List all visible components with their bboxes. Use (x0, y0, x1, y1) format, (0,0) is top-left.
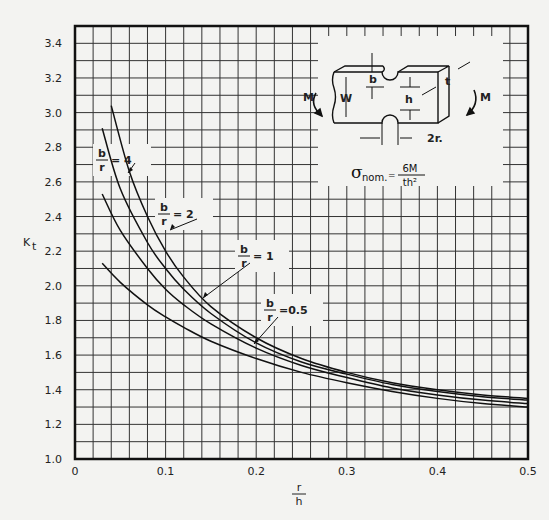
x-tick-label: 0 (72, 465, 79, 478)
svg-text:r: r (241, 257, 247, 270)
x-tick-label: 0.5 (519, 465, 537, 478)
y-tick-label: 2.2 (45, 245, 63, 258)
svg-text:th²: th² (403, 177, 417, 188)
svg-text:h: h (405, 93, 413, 106)
svg-text:b: b (240, 243, 248, 256)
svg-text:= 2: = 2 (173, 208, 194, 221)
svg-text:b: b (369, 73, 377, 86)
svg-text:=: = (388, 170, 396, 180)
svg-text:nom.: nom. (362, 172, 387, 183)
svg-text:r: r (267, 311, 273, 324)
svg-text:2r.: 2r. (427, 132, 443, 145)
svg-text:r: r (297, 481, 302, 494)
svg-text:K: K (23, 236, 31, 249)
y-tick-label: 2.6 (45, 176, 63, 189)
svg-text:r: r (161, 215, 167, 228)
y-tick-label: 1.6 (45, 349, 63, 362)
svg-text:W: W (340, 92, 352, 105)
svg-text:b: b (98, 147, 106, 160)
y-tick-label: 1.8 (45, 314, 63, 327)
y-tick-label: 1.4 (45, 384, 63, 397)
svg-text:h: h (296, 495, 303, 508)
x-axis-ticks: 00.10.20.30.40.5 (72, 465, 537, 478)
y-tick-label: 3.0 (45, 107, 63, 120)
svg-text:= 4: = 4 (111, 154, 132, 167)
y-axis-label: K t (23, 236, 37, 253)
y-tick-label: 3.4 (45, 37, 63, 50)
x-tick-label: 0.2 (247, 465, 265, 478)
y-axis-ticks: 1.01.21.41.61.82.02.22.42.62.83.03.23.4 (45, 37, 63, 466)
svg-text:M: M (480, 91, 491, 104)
curve-label-backgrounds (93, 144, 323, 326)
x-tick-label: 0.1 (157, 465, 175, 478)
svg-text:r: r (99, 161, 105, 174)
y-tick-label: 1.2 (45, 418, 63, 431)
x-axis-label: r h (292, 481, 306, 508)
svg-text:t: t (32, 240, 37, 253)
y-tick-label: 2.4 (45, 211, 63, 224)
stress-concentration-chart: br= 4br= 2br= 1br=0.5 1.01.21.41.61.82.0… (0, 0, 549, 520)
y-tick-label: 3.2 (45, 72, 63, 85)
x-tick-label: 0.4 (429, 465, 447, 478)
svg-text:=0.5: =0.5 (279, 304, 308, 317)
svg-text:b: b (266, 297, 274, 310)
svg-text:= 1: = 1 (253, 250, 274, 263)
x-tick-label: 0.3 (338, 465, 356, 478)
svg-text:b: b (160, 201, 168, 214)
svg-text:M: M (303, 91, 314, 104)
svg-text:t: t (445, 75, 450, 88)
y-tick-label: 1.0 (45, 453, 63, 466)
y-tick-label: 2.8 (45, 141, 63, 154)
y-tick-label: 2.0 (45, 280, 63, 293)
svg-text:6M: 6M (403, 163, 418, 174)
